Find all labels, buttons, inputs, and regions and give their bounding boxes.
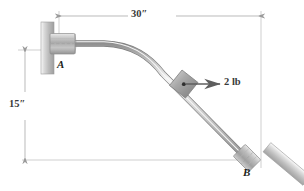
mechanics-diagram: 30″ 15″ 2 lb A B (0, 0, 304, 191)
rod-highlight (62, 42, 248, 160)
point-label-b: B (243, 166, 250, 178)
point-label-a: A (57, 58, 64, 70)
wall-support-b (263, 143, 304, 186)
force-magnitude-label: 2 lb (224, 76, 241, 87)
dimension-label-30in: 30″ (131, 8, 147, 19)
rod-outline (62, 44, 249, 162)
curved-rod (62, 42, 249, 161)
diagram-canvas (0, 0, 304, 191)
collar-center-dot (182, 82, 186, 86)
dimension-label-15in: 15″ (9, 98, 25, 109)
bearing-collar-a (50, 34, 76, 55)
